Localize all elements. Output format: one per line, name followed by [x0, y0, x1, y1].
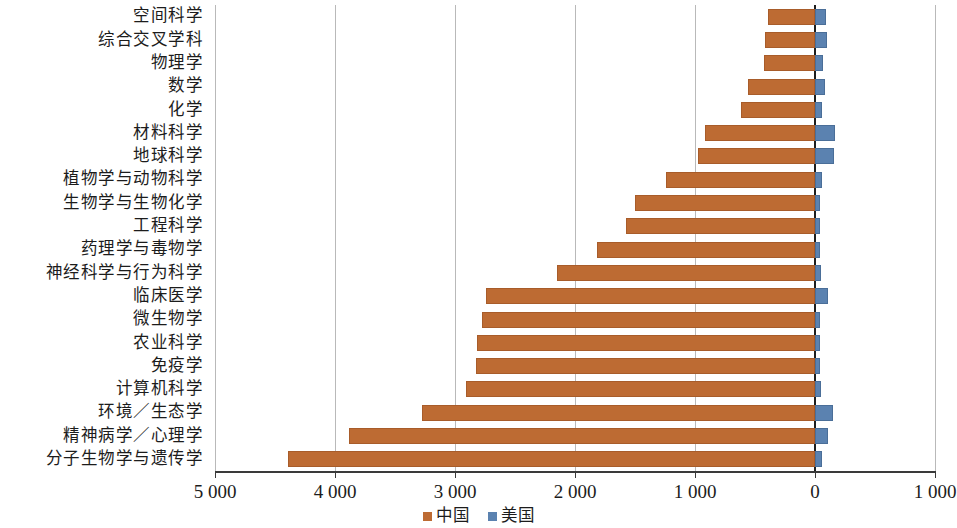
bar-china[interactable]	[626, 218, 815, 234]
category-label: 生物学与生物化学	[63, 195, 203, 212]
category-label-row: 空间科学	[0, 5, 208, 28]
bar-row	[215, 5, 935, 28]
bar-usa[interactable]	[815, 79, 825, 95]
bar-row	[215, 448, 935, 471]
axis-tick	[935, 471, 936, 478]
category-label-row: 植物学与动物科学	[0, 168, 208, 191]
category-label: 地球科学	[133, 148, 203, 165]
bar-china[interactable]	[486, 288, 815, 304]
legend-swatch-icon	[423, 512, 432, 521]
bar-row	[215, 354, 935, 377]
bar-row	[215, 215, 935, 238]
bar-usa[interactable]	[815, 335, 820, 351]
category-label: 环境／生态学	[98, 404, 203, 421]
bar-usa[interactable]	[815, 265, 821, 281]
bar-usa[interactable]	[815, 405, 833, 421]
category-label: 数学	[168, 78, 203, 95]
bar-china[interactable]	[666, 172, 815, 188]
bar-row	[215, 191, 935, 214]
legend-label: 美国	[501, 508, 535, 525]
legend-item[interactable]: 美国	[488, 508, 535, 525]
bar-row	[215, 98, 935, 121]
gridline	[935, 5, 936, 471]
axis-tick-label: 0	[810, 479, 820, 505]
chart-legend: 中国美国	[0, 505, 957, 528]
bar-row	[215, 145, 935, 168]
bar-usa[interactable]	[815, 218, 820, 234]
bar-usa[interactable]	[815, 125, 835, 141]
bar-row	[215, 28, 935, 51]
category-label-row: 工程科学	[0, 215, 208, 238]
category-label: 材料科学	[133, 125, 203, 142]
category-label: 分子生物学与遗传学	[46, 451, 204, 468]
bar-usa[interactable]	[815, 148, 834, 164]
axis-tick	[695, 471, 696, 478]
bar-usa[interactable]	[815, 312, 820, 328]
category-label-row: 微生物学	[0, 308, 208, 331]
bar-usa[interactable]	[815, 242, 820, 258]
axis-tick-label: 1 000	[914, 479, 957, 505]
bar-usa[interactable]	[815, 102, 822, 118]
bar-row	[215, 308, 935, 331]
category-label-row: 计算机科学	[0, 378, 208, 401]
axis-tick-label: 2 000	[554, 479, 597, 505]
category-axis-labels: 空间科学综合交叉学科物理学数学化学材料科学地球科学植物学与动物科学生物学与生物化…	[0, 5, 208, 471]
bar-usa[interactable]	[815, 451, 822, 467]
bar-usa[interactable]	[815, 358, 820, 374]
bar-china[interactable]	[422, 405, 815, 421]
bar-china[interactable]	[741, 102, 815, 118]
category-label: 临床医学	[133, 288, 203, 305]
bar-usa[interactable]	[815, 195, 820, 211]
bar-china[interactable]	[557, 265, 815, 281]
bar-china[interactable]	[477, 335, 815, 351]
axis-tick-label: 1 000	[674, 479, 717, 505]
bar-china[interactable]	[466, 381, 815, 397]
category-label: 农业科学	[133, 335, 203, 352]
category-label-row: 物理学	[0, 52, 208, 75]
bar-china[interactable]	[482, 312, 815, 328]
category-label: 工程科学	[133, 218, 203, 235]
axis-tick	[575, 471, 576, 478]
bar-usa[interactable]	[815, 381, 821, 397]
bar-china[interactable]	[476, 358, 815, 374]
category-label: 药理学与毒物学	[81, 241, 204, 258]
axis-tick-label: 4 000	[314, 479, 357, 505]
category-label-row: 化学	[0, 98, 208, 121]
axis-tick-label: 5 000	[194, 479, 237, 505]
bar-usa[interactable]	[815, 9, 826, 25]
bar-china[interactable]	[765, 32, 815, 48]
bar-china[interactable]	[288, 451, 815, 467]
category-label: 微生物学	[133, 311, 203, 328]
bar-china[interactable]	[764, 55, 815, 71]
category-label-row: 药理学与毒物学	[0, 238, 208, 261]
bar-china[interactable]	[705, 125, 815, 141]
bar-china[interactable]	[597, 242, 815, 258]
category-label-row: 分子生物学与遗传学	[0, 448, 208, 471]
category-label-row: 生物学与生物化学	[0, 191, 208, 214]
bar-china[interactable]	[748, 79, 815, 95]
bar-china[interactable]	[698, 148, 815, 164]
bar-row	[215, 424, 935, 447]
value-axis-tick-labels: 5 0004 0003 0002 0001 00001 000	[0, 479, 957, 505]
bar-usa[interactable]	[815, 32, 827, 48]
bar-china[interactable]	[349, 428, 815, 444]
category-label: 精神病学／心理学	[63, 428, 203, 445]
bar-row	[215, 378, 935, 401]
category-label: 植物学与动物科学	[63, 171, 203, 188]
category-label-row: 农业科学	[0, 331, 208, 354]
axis-tick	[815, 471, 816, 478]
category-label-row: 材料科学	[0, 121, 208, 144]
category-label: 计算机科学	[116, 381, 204, 398]
bar-row	[215, 238, 935, 261]
category-label: 神经科学与行为科学	[46, 265, 204, 282]
bar-row	[215, 52, 935, 75]
bar-usa[interactable]	[815, 55, 823, 71]
bar-china[interactable]	[768, 9, 815, 25]
bar-usa[interactable]	[815, 428, 828, 444]
legend-item[interactable]: 中国	[423, 508, 470, 525]
bar-row	[215, 261, 935, 284]
axis-tick-label: 3 000	[434, 479, 477, 505]
bar-usa[interactable]	[815, 172, 822, 188]
bar-china[interactable]	[635, 195, 815, 211]
bar-usa[interactable]	[815, 288, 828, 304]
